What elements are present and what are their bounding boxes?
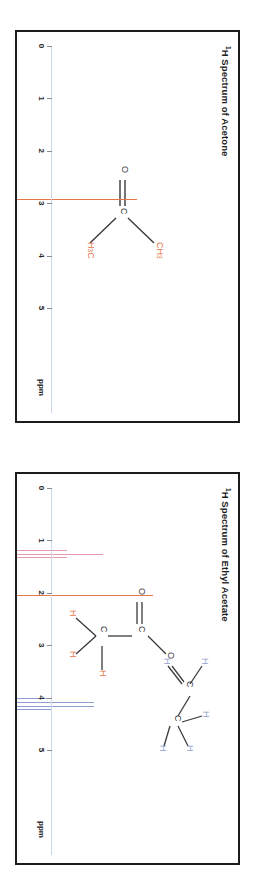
atom-label-hydrogen-acetyl-2: H — [68, 651, 78, 658]
axis-tick-ethyl-acetate-0 — [47, 488, 52, 489]
panel-title-ethyl-acetate: 1H Spectrum of Ethyl Acetate — [220, 488, 232, 622]
axis-baseline-acetone — [51, 46, 52, 413]
peak-ch3-triplet-3 — [17, 550, 67, 551]
axis-tick-acetone-2 — [47, 151, 52, 152]
axis-baseline-ethyl-acetate — [51, 488, 52, 855]
atom-label-methylene-carbon-ethyl-acetate: C — [185, 681, 195, 688]
atom-label-hydrogen-acetyl-1: H — [68, 610, 78, 617]
spectrum-panel-acetone: 1H Spectrum of Acetone O C H3C CH3 — [15, 30, 240, 423]
panel-rotation-wrapper-ethyl-acetate: 1H Spectrum of Ethyl Acetate — [17, 474, 238, 863]
atom-label-hydrogen-methylene-1: H — [200, 658, 210, 665]
peak-och2-quartet-2 — [17, 706, 94, 707]
atom-label-methyl-right-acetone: CH3 — [155, 242, 165, 259]
peak-acetyl-singlet — [17, 595, 153, 596]
plot-area-acetone: 1H Spectrum of Acetone O C H3C CH3 — [17, 32, 238, 421]
axis-ticklabel-ethyl-acetate-2: 2 — [37, 591, 46, 595]
axis-ticklabel-ethyl-acetate-3: 3 — [37, 643, 46, 647]
atom-label-hydrogen-acetyl-3: H — [98, 670, 108, 677]
atom-label-oxygen-acetone: O — [120, 166, 130, 173]
axis-ticklabel-ethyl-acetate-1: 1 — [37, 538, 46, 542]
peak-ch3-triplet-2 — [17, 554, 103, 555]
axis-tick-acetone-5 — [47, 308, 52, 309]
axis-ticklabel-acetone-2: 2 — [37, 149, 46, 153]
atom-label-hydrogen-methyl-2: H — [185, 745, 195, 752]
axis-ticklabel-acetone-3: 3 — [37, 201, 46, 205]
title-text-ethyl-acetate: H Spectrum of Ethyl Acetate — [220, 492, 231, 622]
atom-label-acetyl-carbon-ethyl-acetate: C — [99, 626, 109, 633]
peak-och2-quartet-3 — [17, 702, 94, 703]
axis-ticklabel-acetone-0: 0 — [37, 44, 46, 48]
axis-tick-ethyl-acetate-5 — [47, 750, 52, 751]
atom-label-hydrogen-methyl-1: H — [201, 711, 211, 718]
axis-ticklabel-ethyl-acetate-5: 5 — [37, 748, 46, 752]
atom-label-hydrogen-methyl-3: H — [158, 745, 168, 752]
axis-tick-acetone-0 — [47, 46, 52, 47]
peak-acetone-singlet — [17, 199, 137, 200]
axis-unit-label-ethyl-acetate: ppm — [37, 821, 46, 838]
axis-tick-acetone-3 — [47, 203, 52, 204]
panel-title-acetone: 1H Spectrum of Acetone — [220, 46, 232, 156]
molecule-acetone: O C H3C CH3 — [68, 150, 176, 280]
peak-och2-quartet-1 — [17, 709, 51, 710]
atom-label-hydrogen-methylene-2: H — [162, 658, 172, 665]
axis-ticklabel-acetone-5: 5 — [37, 306, 46, 310]
axis-tick-ethyl-acetate-4 — [47, 698, 52, 699]
axis-tick-ethyl-acetate-2 — [47, 593, 52, 594]
axis-tick-acetone-4 — [47, 256, 52, 257]
atom-label-carbonyl-carbon-acetone: C — [119, 208, 129, 215]
axis-tick-acetone-1 — [47, 98, 52, 99]
axis-tick-ethyl-acetate-3 — [47, 645, 52, 646]
axis-ticklabel-ethyl-acetate-0: 0 — [37, 486, 46, 490]
axis-tick-ethyl-acetate-1 — [47, 540, 52, 541]
plot-area-ethyl-acetate: 1H Spectrum of Ethyl Acetate — [17, 474, 238, 863]
axis-unit-label-acetone: ppm — [37, 379, 46, 396]
axis-ticklabel-acetone-4: 4 — [37, 253, 46, 257]
title-text-acetone: H Spectrum of Acetone — [220, 50, 231, 157]
atom-label-carbonyl-carbon-ethyl-acetate: C — [137, 626, 147, 633]
atom-label-methyl-left-acetone: H3C — [86, 242, 96, 259]
peak-ch3-triplet-1 — [17, 557, 67, 558]
panel-rotation-wrapper-acetone: 1H Spectrum of Acetone O C H3C CH3 — [17, 32, 238, 421]
atom-label-methyl-carbon-ethyl-acetate: C — [173, 715, 183, 722]
axis-ticklabel-ethyl-acetate-4: 4 — [37, 695, 46, 699]
spectrum-panel-ethyl-acetate: 1H Spectrum of Ethyl Acetate — [15, 472, 240, 865]
axis-ticklabel-acetone-1: 1 — [37, 96, 46, 100]
